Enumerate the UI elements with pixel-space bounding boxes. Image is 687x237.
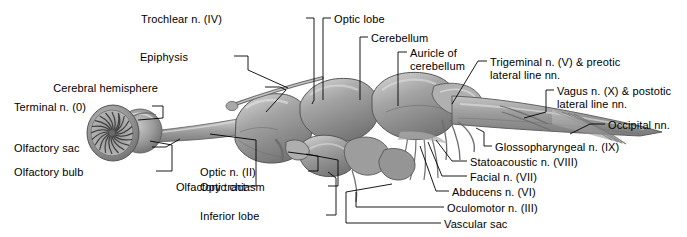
label-abducens-nerve: Abducens n. (VI) [452, 186, 536, 199]
label-inferior-lobe: Inferior lobe [200, 210, 326, 223]
label-occipital-nerves: Occipital nn. [608, 119, 670, 132]
vascular-sac-shape [379, 148, 415, 180]
label-vascular-sac: Vascular sac [444, 218, 507, 231]
leader-abducens [420, 146, 449, 191]
leader-oculomotor [356, 192, 444, 207]
label-epiphysis: Epiphysis [0, 51, 188, 64]
label-cerebellum: Cerebellum [371, 32, 428, 45]
label-statoacoustic-nerve: Statoacoustic n. (VIII) [470, 156, 578, 169]
label-olfactory-sac: Olfactory sac [0, 142, 88, 155]
label-terminal-nerve: Terminal n. (0) [0, 101, 90, 114]
label-cerebral-hemisphere: Cerebral hemisphere [0, 82, 158, 95]
leader-epiphysis [234, 56, 288, 88]
label-auricle-of-cerebellum: Auricle of cerebellum [410, 47, 465, 72]
brain-anatomy-figure: Trochlear n. (IV) Optic lobe Cerebellum … [0, 0, 687, 237]
label-olfactory-bulb: Olfactory bulb [0, 166, 90, 179]
label-oculomotor-nerve: Oculomotor n. (III) [447, 202, 538, 215]
label-trigeminal-nerve: Trigeminal n. (V) & preotic lateral line… [490, 56, 620, 81]
label-trochlear: Trochlear n. (IV) [0, 13, 222, 26]
label-facial-nerve: Facial n. (VII) [470, 171, 537, 184]
leader-vascular-sac [346, 184, 441, 223]
label-optic-lobe: Optic lobe [334, 13, 385, 26]
brain-illustration [0, 0, 687, 237]
label-olfactory-tract: Olfactory tract [110, 181, 246, 194]
leader-inferior-lobe [326, 172, 336, 215]
label-optic-nerve: Optic n. (II) [200, 166, 308, 179]
leader-statoacoustic [436, 140, 467, 161]
optic-lobe-shape [300, 78, 379, 141]
label-vagus-nerve: Vagus n. (X) & postotic lateral line nn. [557, 85, 671, 110]
glossopharyngeal-nerve-shape [458, 122, 474, 152]
leader-glossopharyngeal [476, 128, 492, 146]
label-glossopharyngeal-nerve: Glossopharyngeal n. (IX) [495, 141, 619, 154]
